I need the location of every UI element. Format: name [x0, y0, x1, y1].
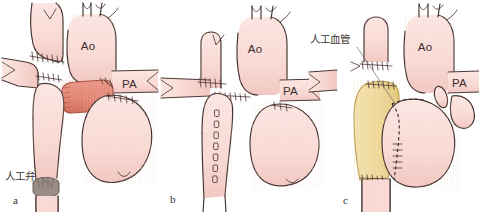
heart-chamber-right-b	[250, 101, 323, 189]
outflow-limb-a	[33, 82, 65, 180]
pulmonary-artery-label-b: PA	[283, 85, 298, 97]
panel-letter-c: c	[343, 194, 348, 206]
aortic-stump-a	[2, 58, 38, 88]
aorta-label-b: Ao	[248, 43, 263, 55]
aorta-label-a: Ao	[81, 40, 96, 52]
prosthetic-valve-callout-label: 人工弁	[5, 170, 35, 182]
figure-canvas: Ao PA	[0, 0, 479, 212]
distal-vessel-a	[36, 196, 58, 212]
panel-letter-b: b	[170, 193, 176, 205]
aortic-stump-c	[309, 70, 337, 92]
pulmonary-artery-label-a: PA	[122, 78, 137, 90]
panel-letter-a: a	[13, 194, 18, 206]
heart-chamber-right-a	[82, 93, 155, 186]
prosthetic-valve-a[interactable]	[33, 177, 59, 197]
distal-vessel-c	[362, 179, 390, 212]
aorta-label-c: Ao	[418, 41, 433, 53]
heart-chamber-right-c	[382, 96, 460, 190]
descending-aorta-a	[31, 3, 63, 62]
surgical-figure: Ao PA	[0, 0, 479, 212]
pulmonary-artery-label-c: PA	[452, 77, 467, 89]
prosthetic-vessel-callout-label: 人工血管	[310, 33, 350, 45]
